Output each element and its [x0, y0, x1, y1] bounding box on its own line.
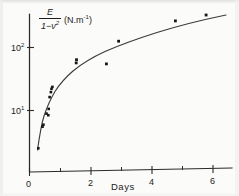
x-axis-line: [30, 168, 233, 172]
data-point: [51, 86, 54, 89]
y-ticklabel-lower: 101: [11, 105, 25, 116]
data-point: [105, 63, 108, 66]
data-point: [37, 147, 40, 150]
y-axis-fraction: E 1−ν2: [39, 8, 61, 31]
chart-plot-area: 102 101 0 2 4 6 Days: [0, 0, 239, 196]
data-point: [47, 108, 50, 111]
x-ticklabel-2: 2: [88, 178, 93, 188]
x-ticklabel-4: 4: [149, 177, 154, 187]
y-axis-denominator: 1−ν2: [39, 19, 61, 31]
data-point: [117, 40, 120, 43]
data-point: [205, 14, 208, 17]
y-axis-numerator: E: [45, 8, 55, 18]
figure-canvas: 102 101 0 2 4 6 Days E 1−ν2 (N.m-1): [0, 0, 239, 196]
data-point: [50, 91, 53, 94]
data-point: [75, 62, 78, 65]
y-axis-title: E 1−ν2 (N.m-1): [39, 8, 92, 31]
fit-curve: [38, 15, 227, 150]
x-axis-title: Days: [111, 181, 135, 192]
data-point: [42, 123, 45, 126]
data-point: [47, 114, 50, 117]
y-ticklabel-upper: 102: [11, 42, 25, 53]
data-point: [174, 20, 177, 23]
x-ticklabel-0: 0: [26, 179, 31, 189]
data-point: [75, 58, 78, 61]
x-ticklabel-6: 6: [210, 176, 215, 186]
data-point: [48, 96, 51, 99]
y-axis-units: (N.m-1): [64, 14, 92, 25]
